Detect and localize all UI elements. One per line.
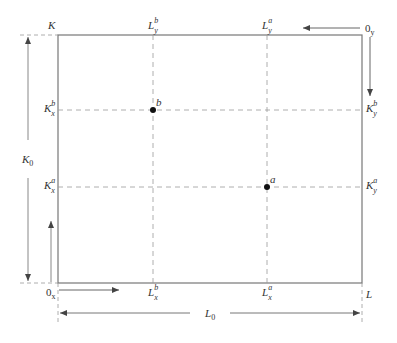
corner-k-label: K: [47, 19, 56, 31]
label-Kxa: Kax: [43, 176, 55, 195]
box-frame: [58, 35, 362, 283]
point-a-label: a: [270, 173, 276, 185]
origin-x-label: 0x: [46, 286, 56, 301]
label-Kxb: Kbx: [43, 99, 55, 118]
label-Kya: Kay: [365, 176, 377, 195]
label-L0: L0: [204, 307, 215, 322]
edgeworth-box-diagram: b a K 0y 0x L Lby Lay Lbx Lax Kbx Kax Kb…: [0, 0, 397, 343]
origin-y-label: 0y: [365, 22, 375, 37]
corner-l-label: L: [365, 288, 372, 300]
label-Lyb: Lby: [147, 16, 158, 35]
point-b-label: b: [156, 96, 162, 108]
label-Lya: Lay: [261, 16, 272, 35]
label-Lxb: Lbx: [147, 283, 158, 302]
label-K0: K0: [21, 153, 33, 168]
label-Lxa: Lax: [261, 283, 272, 302]
label-Kyb: Kby: [365, 99, 377, 118]
